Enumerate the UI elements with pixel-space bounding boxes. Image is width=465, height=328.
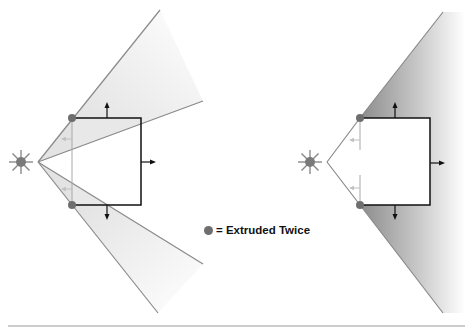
left-diagram xyxy=(9,10,203,313)
left-extruded-vertex-top xyxy=(68,114,76,122)
left-extruded-vertex-bottom xyxy=(68,201,76,209)
right-light-source-icon xyxy=(298,150,322,174)
diagram-canvas xyxy=(0,0,465,328)
right-normal-left-bottom-arrow-icon xyxy=(349,186,360,190)
right-extruded-vertex-bottom xyxy=(356,201,364,209)
left-light-source-icon xyxy=(9,150,33,174)
legend: = Extruded Twice xyxy=(204,224,310,236)
right-diagram xyxy=(298,12,465,313)
right-extruded-vertex-top xyxy=(356,114,364,122)
legend-dot-icon xyxy=(204,226,213,235)
legend-text: = Extruded Twice xyxy=(216,224,310,236)
left-normal-right-arrow-icon xyxy=(141,160,156,165)
right-box-fill xyxy=(360,118,430,205)
right-normal-left-top-arrow-icon xyxy=(349,138,360,142)
